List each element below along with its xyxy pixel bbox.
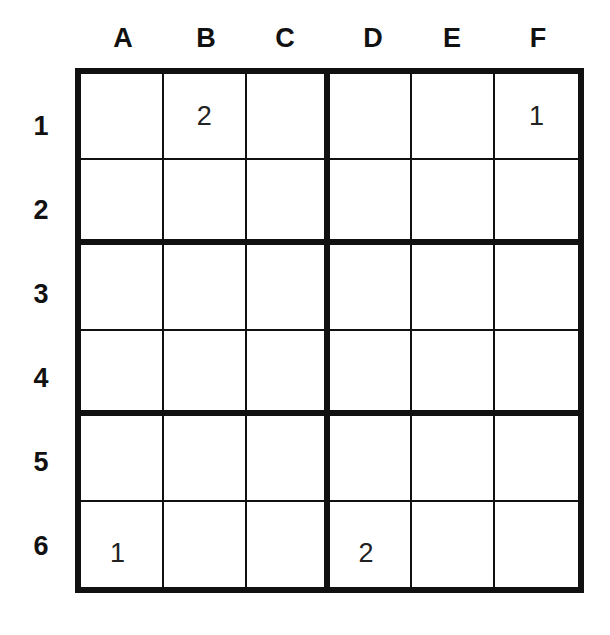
cell-f6[interactable] (495, 502, 578, 588)
cell-b6[interactable] (164, 502, 247, 588)
cell-f2[interactable] (495, 160, 578, 246)
column-label-e: E (410, 20, 494, 56)
cell-e5[interactable] (412, 416, 495, 502)
cell-c6[interactable] (247, 502, 330, 588)
cell-b4[interactable] (164, 331, 247, 417)
cell-c3[interactable] (247, 245, 330, 331)
cell-a6[interactable]: 1 (81, 502, 164, 588)
cell-b3[interactable] (164, 245, 247, 331)
row-label-3: 3 (26, 276, 56, 312)
column-label-b: B (164, 20, 248, 56)
cell-f4[interactable] (495, 331, 578, 417)
cell-a1[interactable] (81, 74, 164, 160)
cell-f1[interactable]: 1 (495, 74, 578, 160)
cell-value: 1 (73, 537, 162, 568)
cell-c4[interactable] (247, 331, 330, 417)
cell-f5[interactable] (495, 416, 578, 502)
cell-d2[interactable] (330, 160, 413, 246)
cell-e2[interactable] (412, 160, 495, 246)
cell-value: 2 (322, 537, 411, 568)
cell-a5[interactable] (81, 416, 164, 502)
row-label-4: 4 (26, 360, 56, 396)
cell-b1[interactable]: 2 (164, 74, 247, 160)
sudoku-grid: 2112 (75, 68, 584, 593)
cell-a4[interactable] (81, 331, 164, 417)
column-label-d: D (331, 20, 415, 56)
row-label-5: 5 (26, 444, 56, 480)
column-label-f: F (496, 20, 580, 56)
cell-e4[interactable] (412, 331, 495, 417)
cell-e1[interactable] (412, 74, 495, 160)
cell-b2[interactable] (164, 160, 247, 246)
cell-f3[interactable] (495, 245, 578, 331)
cell-e6[interactable] (412, 502, 495, 588)
cell-d1[interactable] (330, 74, 413, 160)
cell-b5[interactable] (164, 416, 247, 502)
cell-value: 2 (164, 100, 245, 131)
cell-d5[interactable] (330, 416, 413, 502)
row-label-6: 6 (26, 528, 56, 564)
cell-c2[interactable] (247, 160, 330, 246)
cell-a3[interactable] (81, 245, 164, 331)
column-label-a: A (81, 20, 165, 56)
cell-d6[interactable]: 2 (330, 502, 413, 588)
row-label-2: 2 (26, 192, 56, 228)
cell-d4[interactable] (330, 331, 413, 417)
cell-e3[interactable] (412, 245, 495, 331)
row-label-1: 1 (26, 108, 56, 144)
cell-c1[interactable] (247, 74, 330, 160)
cell-d3[interactable] (330, 245, 413, 331)
column-label-c: C (243, 20, 327, 56)
cell-c5[interactable] (247, 416, 330, 502)
cell-a2[interactable] (81, 160, 164, 246)
cell-value: 1 (495, 100, 578, 131)
